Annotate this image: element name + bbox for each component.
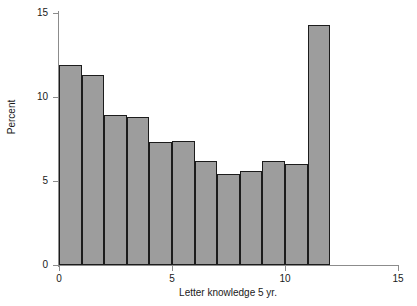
y-tick-label: 0 [22,260,48,270]
y-tick-mark [53,265,58,266]
histogram-bar [149,142,172,265]
histogram-bar [59,65,82,265]
y-tick-label: 15 [22,8,48,18]
plot-area [59,13,398,265]
x-tick-mark [398,266,399,271]
x-tick-label: 15 [383,274,413,284]
histogram-figure: 051015 051015 Percent Letter knowledge 5… [0,0,417,306]
y-axis-title: Percent [7,82,17,152]
x-tick-mark [59,266,60,271]
histogram-bar [217,174,240,265]
histogram-bar [262,161,285,265]
x-axis-line [58,265,399,266]
x-tick-label: 10 [270,274,300,284]
y-tick-mark [53,181,58,182]
histogram-bar [308,25,331,265]
histogram-bar [82,75,105,265]
histogram-bar [240,171,263,265]
histogram-bar [195,161,218,265]
x-tick-mark [172,266,173,271]
x-tick-label: 0 [44,274,74,284]
histogram-bar [127,117,150,265]
x-axis-title: Letter knowledge 5 yr. [108,288,348,298]
bar-series [59,13,398,265]
y-tick-label: 10 [22,92,48,102]
y-tick-mark [53,97,58,98]
y-tick-label: 5 [22,176,48,186]
histogram-bar [104,115,127,265]
x-tick-mark [285,266,286,271]
histogram-bar [172,141,195,265]
x-tick-label: 5 [157,274,187,284]
y-tick-mark [53,13,58,14]
histogram-bar [285,164,308,265]
